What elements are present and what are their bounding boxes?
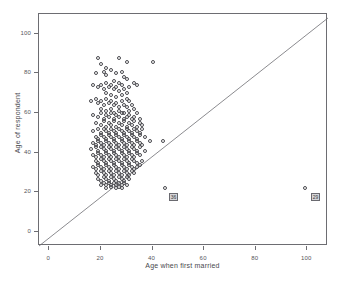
x-tick-label: 60 [191, 255, 215, 261]
data-point [94, 121, 98, 125]
y-tick-label: 100 [9, 30, 31, 36]
data-point [104, 66, 108, 70]
data-point [120, 111, 124, 115]
data-point [107, 115, 111, 119]
data-point [143, 149, 147, 153]
y-tick-mark [34, 112, 38, 113]
y-tick-mark [34, 231, 38, 232]
data-point [161, 139, 165, 143]
data-point [135, 165, 139, 169]
data-point [140, 159, 144, 163]
x-tick-mark [203, 246, 204, 250]
data-point [109, 68, 113, 72]
y-tick-mark [34, 33, 38, 34]
data-point [125, 183, 129, 187]
data-point [138, 145, 142, 149]
x-tick-mark [48, 246, 49, 250]
x-tick-label: 40 [140, 255, 164, 261]
y-tick-label: 0 [9, 228, 31, 234]
data-point [127, 177, 131, 181]
case-label-box[interactable]: 36 [169, 193, 178, 201]
data-point [112, 119, 116, 123]
data-point [117, 56, 121, 60]
data-point [109, 185, 113, 189]
data-point [89, 147, 93, 151]
y-tick-mark [34, 152, 38, 153]
y-tick-mark [34, 191, 38, 192]
x-tick-mark [255, 246, 256, 250]
y-axis: 020406080100 [8, 13, 38, 245]
data-point [125, 60, 129, 64]
reference-line [39, 14, 328, 246]
data-point [120, 93, 124, 97]
data-point [143, 135, 147, 139]
data-point [148, 139, 152, 143]
title-remnant [40, 0, 300, 4]
plot-frame: 3629 [38, 13, 327, 245]
x-tick-label: 0 [36, 255, 60, 261]
data-point [138, 153, 142, 157]
data-point [138, 133, 142, 137]
x-axis-label: Age when first married [38, 262, 327, 270]
x-tick-mark [306, 246, 307, 250]
x-tick-label: 100 [294, 255, 318, 261]
scatter-plot-figure: 3629 020406080100 020406080100 Age when … [0, 0, 340, 283]
y-axis-label: Age of respondent [14, 53, 22, 193]
y-tick-mark [34, 72, 38, 73]
x-tick-mark [152, 246, 153, 250]
data-point [151, 60, 155, 64]
x-tick-mark [100, 246, 101, 250]
x-tick-label: 80 [243, 255, 267, 261]
plot-area: 3629 [39, 14, 326, 244]
x-tick-label: 20 [88, 255, 112, 261]
data-point [120, 70, 124, 74]
data-point [99, 62, 103, 66]
data-point [89, 99, 93, 103]
case-label-box[interactable]: 29 [311, 193, 320, 201]
data-point [102, 119, 106, 123]
